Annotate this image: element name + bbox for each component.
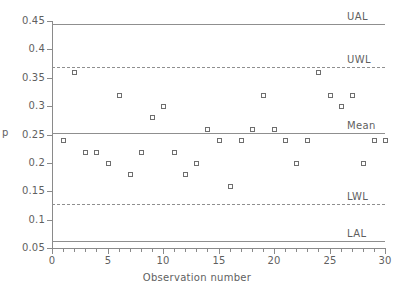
data-point xyxy=(316,70,321,75)
x-axis-tick-minor xyxy=(374,249,375,252)
control-limit-line-ual xyxy=(52,24,385,25)
control-limit-label-lal: LAL xyxy=(347,229,366,239)
y-axis-tick-label: 0.1 xyxy=(28,215,45,225)
data-point xyxy=(94,150,99,155)
control-limit-line-lal xyxy=(52,241,385,242)
x-axis-tick-minor xyxy=(230,249,231,252)
data-point xyxy=(239,138,244,143)
y-axis-tick-label: 0.15 xyxy=(22,186,45,196)
x-axis-tick-minor xyxy=(152,249,153,252)
data-point xyxy=(61,138,66,143)
x-axis-tick-label: 5 xyxy=(88,256,128,266)
x-axis-tick-major xyxy=(163,249,164,254)
x-axis-tick-minor xyxy=(318,249,319,252)
data-point xyxy=(117,93,122,98)
y-axis-tick xyxy=(47,106,52,107)
data-point xyxy=(372,138,377,143)
data-point xyxy=(172,150,177,155)
y-axis-tick xyxy=(47,191,52,192)
y-axis-tick-label: 0.05 xyxy=(22,243,45,253)
data-point xyxy=(205,127,210,132)
x-axis-tick-minor xyxy=(196,249,197,252)
x-axis-tick-label: 20 xyxy=(254,256,294,266)
x-axis-tick-label: 25 xyxy=(310,256,350,266)
data-point xyxy=(139,150,144,155)
y-axis-tick xyxy=(47,21,52,22)
x-axis-title: Observation number xyxy=(0,272,394,283)
x-axis-tick-major xyxy=(274,249,275,254)
control-limit-line-mean xyxy=(52,133,385,134)
data-point xyxy=(294,161,299,166)
data-point xyxy=(339,104,344,109)
x-axis-tick-minor xyxy=(119,249,120,252)
y-axis-tick xyxy=(47,163,52,164)
y-axis-tick-label: 0.3 xyxy=(28,101,45,111)
x-axis-tick-minor xyxy=(352,249,353,252)
y-axis-line xyxy=(52,21,53,249)
data-point xyxy=(83,150,88,155)
data-point xyxy=(161,104,166,109)
x-axis-tick-minor xyxy=(141,249,142,252)
data-point xyxy=(328,93,333,98)
x-axis-tick-minor xyxy=(96,249,97,252)
data-point xyxy=(272,127,277,132)
x-axis-tick-minor xyxy=(263,249,264,252)
data-point xyxy=(228,184,233,189)
x-axis-tick-minor xyxy=(63,249,64,252)
x-axis-tick-minor xyxy=(185,249,186,252)
control-limit-label-mean: Mean xyxy=(347,121,376,131)
data-point xyxy=(72,70,77,75)
x-axis-tick-major xyxy=(330,249,331,254)
y-axis-tick-label: 0.2 xyxy=(28,158,45,168)
x-axis-tick-minor xyxy=(130,249,131,252)
control-limit-line-uwl xyxy=(52,67,385,68)
x-axis-tick-minor xyxy=(341,249,342,252)
data-point xyxy=(305,138,310,143)
x-axis-tick-minor xyxy=(363,249,364,252)
y-axis-tick-label: 0.4 xyxy=(28,44,45,54)
y-axis-tick-label: 0.35 xyxy=(22,73,45,83)
control-limit-line-lwl xyxy=(52,204,385,205)
data-point xyxy=(361,161,366,166)
y-axis-tick xyxy=(47,78,52,79)
x-axis-tick-major xyxy=(385,249,386,254)
y-axis-tick xyxy=(47,220,52,221)
data-point xyxy=(261,93,266,98)
control-limit-label-uwl: UWL xyxy=(347,55,371,65)
x-axis-tick-minor xyxy=(174,249,175,252)
data-point xyxy=(283,138,288,143)
x-axis-tick-major xyxy=(108,249,109,254)
x-axis-tick-label: 0 xyxy=(32,256,72,266)
data-point xyxy=(194,161,199,166)
control-limit-label-ual: UAL xyxy=(347,12,368,22)
data-point xyxy=(183,172,188,177)
x-axis-tick-major xyxy=(52,249,53,254)
data-point xyxy=(106,161,111,166)
data-point xyxy=(250,127,255,132)
y-axis-title: p xyxy=(2,128,8,138)
x-axis-tick-minor xyxy=(307,249,308,252)
x-axis-tick-minor xyxy=(74,249,75,252)
data-point xyxy=(383,138,388,143)
control-limit-label-lwl: LWL xyxy=(347,192,368,202)
x-axis-tick-major xyxy=(219,249,220,254)
x-axis-tick-label: 15 xyxy=(199,256,239,266)
data-point xyxy=(128,172,133,177)
x-axis-tick-minor xyxy=(252,249,253,252)
data-point xyxy=(350,93,355,98)
x-axis-tick-minor xyxy=(207,249,208,252)
y-axis-tick xyxy=(47,135,52,136)
x-axis-tick-minor xyxy=(241,249,242,252)
y-axis-tick-label: 0.45 xyxy=(22,16,45,26)
x-axis-tick-label: 30 xyxy=(365,256,394,266)
x-axis-tick-minor xyxy=(285,249,286,252)
control-chart: 0.050.10.150.20.250.30.350.40.4505101520… xyxy=(0,0,394,291)
x-axis-tick-minor xyxy=(296,249,297,252)
data-point xyxy=(150,115,155,120)
data-point xyxy=(217,138,222,143)
y-axis-tick xyxy=(47,49,52,50)
y-axis-tick-label: 0.25 xyxy=(22,130,45,140)
x-axis-tick-minor xyxy=(85,249,86,252)
x-axis-tick-label: 10 xyxy=(143,256,183,266)
